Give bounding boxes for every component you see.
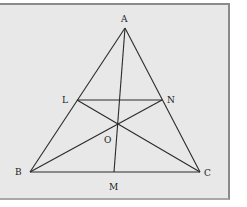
label-m: M <box>109 182 118 192</box>
label-l: L <box>62 95 68 105</box>
label-c: C <box>204 168 211 178</box>
label-b: B <box>15 167 22 177</box>
label-o: O <box>104 135 111 145</box>
label-n: N <box>167 95 175 105</box>
label-a: A <box>120 14 128 24</box>
triangle-diagram: A B C L N O M <box>0 0 247 207</box>
